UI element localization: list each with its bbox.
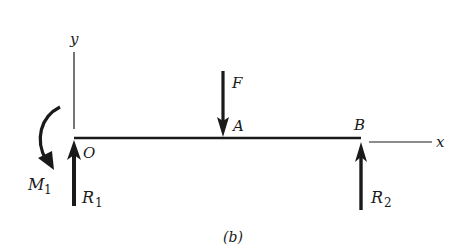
force-f-arrow-icon <box>217 71 229 137</box>
origin-label: O <box>83 144 95 162</box>
svg-text:R: R <box>81 188 94 207</box>
point-b-label: B <box>353 116 365 134</box>
point-a-label: A <box>231 117 244 135</box>
svg-text:R: R <box>370 188 383 207</box>
beam-free-body-diagram: y x O R 1 M 1 F A B R 2 (b) <box>0 0 467 247</box>
x-axis-label: x <box>436 133 445 151</box>
reaction-r1-arrow-icon <box>67 140 81 206</box>
figure-caption: (b) <box>223 229 243 245</box>
svg-text:1: 1 <box>44 183 52 197</box>
svg-text:1: 1 <box>95 196 103 210</box>
force-f-label: F <box>231 74 243 92</box>
reaction-r2-arrow-icon <box>355 142 367 210</box>
reaction-r2-label: R 2 <box>370 188 392 210</box>
y-axis-label: y <box>69 30 79 48</box>
moment-m1-arrow-icon <box>38 107 60 170</box>
reaction-r1-label: R 1 <box>81 188 103 210</box>
svg-text:M: M <box>27 175 45 194</box>
moment-m1-label: M 1 <box>27 175 52 197</box>
svg-text:2: 2 <box>384 196 392 210</box>
